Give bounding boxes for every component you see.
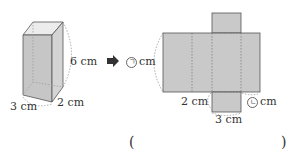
arrow-icon [107, 55, 119, 67]
box-height-label: 6 cm [70, 56, 97, 68]
rectangular-prism [23, 22, 72, 106]
answer-open-paren: ( [129, 134, 134, 150]
answer-blank[interactable] [140, 136, 280, 152]
net-depth-label: 2 cm [181, 96, 208, 108]
unknown-a-label: ㄱcm [126, 56, 156, 68]
answer-close-paren: ) [281, 134, 286, 150]
unknown-b-label: ㄴcm [247, 96, 277, 108]
circled-a-symbol: ㄱ [126, 57, 137, 68]
box-depth-label: 2 cm [57, 97, 84, 109]
net-width-label: 3 cm [215, 114, 242, 126]
box-width-label: 3 cm [10, 101, 37, 113]
circled-b-symbol: ㄴ [247, 97, 258, 108]
